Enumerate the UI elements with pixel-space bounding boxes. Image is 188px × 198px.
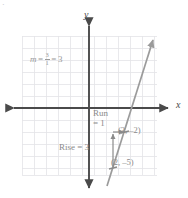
point-label-2-neg5: (2, –5)	[111, 158, 134, 167]
slope-denominator: 1	[45, 60, 50, 67]
y-axis-label: y	[84, 10, 88, 21]
point-marker-2-neg5	[109, 167, 117, 169]
slope-equals-first: =	[38, 55, 43, 64]
slope-result: 3	[58, 55, 63, 64]
run-label-line2: = 1	[93, 119, 108, 128]
coordinate-plane-figure: · y x m = 3 1 = 3 Run = 1 Rise = 3 (3, –…	[0, 0, 188, 198]
slope-fraction: 3 1	[45, 52, 50, 67]
plot-layer	[0, 0, 188, 198]
slope-equals-second: =	[51, 55, 56, 64]
slope-equation-label: m = 3 1 = 3	[30, 52, 62, 67]
run-label-line1: Run	[93, 108, 108, 118]
corner-artifact-mark: ·	[2, 1, 4, 9]
slope-symbol: m	[30, 55, 37, 64]
x-axis-label: x	[176, 100, 180, 111]
point-label-3-neg2: (3, –2)	[118, 126, 141, 135]
slope-numerator: 3	[45, 52, 50, 59]
rise-label: Rise = 3	[59, 143, 89, 152]
run-label: Run = 1	[93, 109, 108, 129]
